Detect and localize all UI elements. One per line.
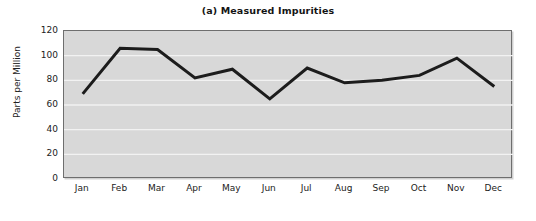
- x-tick-label-oct: Oct: [398, 183, 438, 193]
- x-tick-label-apr: Apr: [174, 183, 214, 193]
- x-tick-label-aug: Aug: [324, 183, 364, 193]
- x-tick-label-jun: Jun: [249, 183, 289, 193]
- y-tick-label-80: 80: [32, 74, 58, 84]
- y-tick-label-120: 120: [32, 25, 58, 35]
- x-tick-label-mar: Mar: [137, 183, 177, 193]
- chart-title: (a) Measured Impurities: [0, 5, 536, 16]
- plot-svg: [64, 31, 513, 179]
- x-tick-label-jul: Jul: [286, 183, 326, 193]
- plot-area: [63, 30, 512, 178]
- x-axis-tick-labels: JanFebMarAprMayJunJulAugSepOctNovDec: [63, 183, 512, 199]
- x-tick-label-may: May: [211, 183, 251, 193]
- y-tick-label-20: 20: [32, 148, 58, 158]
- y-tick-label-40: 40: [32, 124, 58, 134]
- y-tick-label-100: 100: [32, 50, 58, 60]
- y-tick-label-0: 0: [32, 173, 58, 183]
- measured-impurities-chart: (a) Measured Impurities Parts per Millio…: [0, 0, 536, 221]
- x-tick-label-sep: Sep: [361, 183, 401, 193]
- y-axis-title: Parts per Million: [12, 34, 22, 130]
- x-tick-label-feb: Feb: [99, 183, 139, 193]
- y-axis-tick-labels: 120 100 80 60 40 20 0: [30, 0, 58, 221]
- y-tick-label-60: 60: [32, 99, 58, 109]
- x-tick-label-dec: Dec: [473, 183, 513, 193]
- x-tick-label-nov: Nov: [436, 183, 476, 193]
- gridlines: [64, 56, 513, 155]
- x-tick-label-jan: Jan: [62, 183, 102, 193]
